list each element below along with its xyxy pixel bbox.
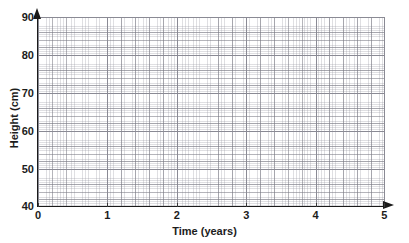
plot-area bbox=[38, 17, 385, 207]
gridline-x-0 bbox=[38, 17, 39, 207]
gridline-x-1 bbox=[107, 17, 108, 207]
x-tick-label-2: 2 bbox=[162, 210, 192, 221]
gridline-x-4 bbox=[316, 17, 317, 207]
x-tick-label-4: 4 bbox=[301, 210, 331, 221]
x-axis-line bbox=[37, 206, 385, 207]
x-tick-mark-1 bbox=[107, 203, 108, 207]
y-axis-line bbox=[37, 17, 38, 207]
gridline-y-70 bbox=[38, 93, 385, 94]
x-tick-mark-4 bbox=[316, 203, 317, 207]
x-tick-mark-3 bbox=[246, 203, 247, 207]
y-tick-label-90: 90 bbox=[4, 12, 34, 23]
gridline-x-5 bbox=[384, 17, 385, 207]
x-tick-mark-5 bbox=[384, 203, 385, 207]
x-tick-label-0: 0 bbox=[23, 210, 53, 221]
x-tick-mark-0 bbox=[38, 203, 39, 207]
gridline-x-2 bbox=[177, 17, 178, 207]
gridline-y-50 bbox=[38, 169, 385, 170]
x-tick-label-1: 1 bbox=[92, 210, 122, 221]
arrow-up-icon bbox=[33, 8, 41, 19]
x-axis-title: Time (years) bbox=[0, 225, 409, 237]
x-tick-mark-2 bbox=[177, 203, 178, 207]
gridline-y-90 bbox=[38, 17, 385, 18]
graph-paper-chart: 90 80 70 60 50 40 0 1 2 3 4 5 Height (cm… bbox=[0, 0, 409, 243]
gridline-x-3 bbox=[246, 17, 247, 207]
x-tick-label-3: 3 bbox=[231, 210, 261, 221]
y-axis-title: Height (cm) bbox=[8, 58, 20, 178]
gridline-y-80 bbox=[38, 55, 385, 56]
x-tick-label-5: 5 bbox=[369, 210, 399, 221]
gridline-y-60 bbox=[38, 131, 385, 132]
